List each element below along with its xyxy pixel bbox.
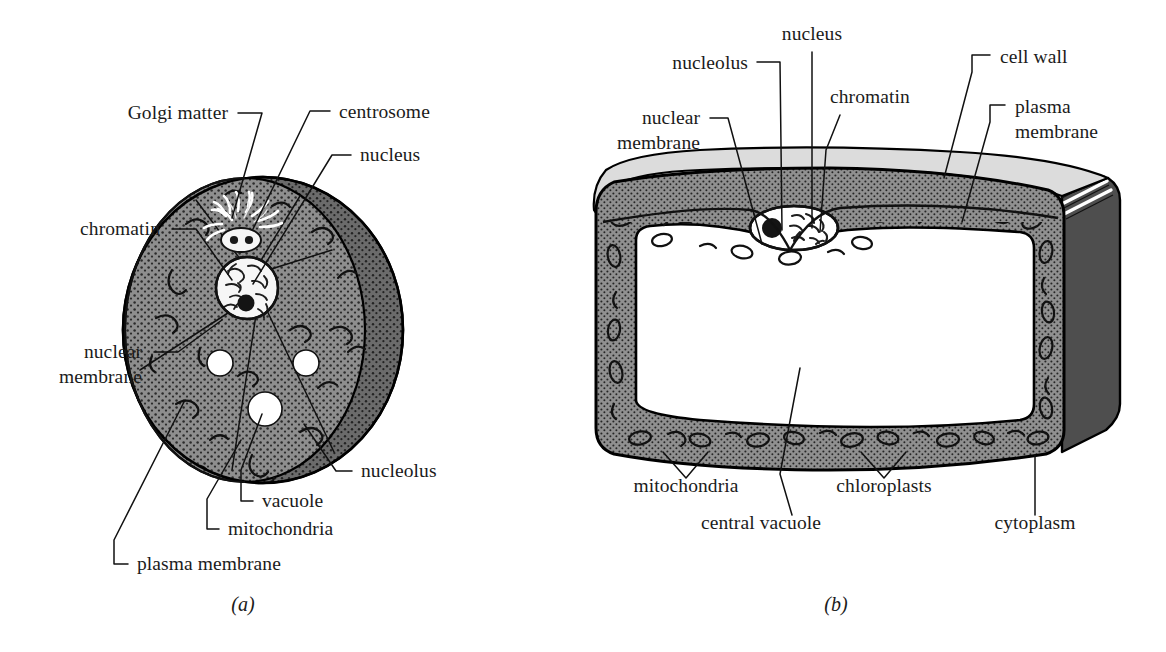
label-chromatin-animal: chromatin (80, 218, 160, 239)
animal-nucleolus (238, 295, 255, 312)
plant-cell-illustration (594, 147, 1120, 470)
animal-vacuole-2 (293, 350, 319, 376)
label-nuclear-membrane-animal-line2: membrane (59, 366, 142, 387)
animal-vacuole-1 (207, 350, 233, 376)
animal-centriole-2 (245, 236, 253, 244)
label-nucleus-animal: nucleus (360, 144, 420, 165)
animal-centriole-1 (230, 236, 238, 244)
caption-a: (a) (231, 593, 255, 616)
label-plasma-membrane-plant-line1: plasma (1015, 96, 1071, 117)
label-mitochondria-plant: mitochondria (633, 475, 738, 496)
label-nuclear-membrane-animal-line1: nuclear (84, 341, 142, 362)
plant-central-vacuole (636, 224, 1034, 427)
label-golgi-matter: Golgi matter (128, 102, 229, 123)
caption-b: (b) (824, 593, 848, 616)
label-cell-wall: cell wall (1000, 46, 1068, 67)
label-nuclear-membrane-plant-line1: nuclear (642, 107, 700, 128)
animal-centrosome (221, 228, 261, 252)
cell-diagram-figure: Golgi matter centrosome nucleus chromati… (0, 0, 1166, 652)
label-nuclear-membrane-plant-line2: membrane (617, 132, 700, 153)
label-chromatin-plant: chromatin (830, 86, 910, 107)
label-central-vacuole: central vacuole (701, 512, 821, 533)
label-plasma-membrane-plant-line2: membrane (1015, 121, 1098, 142)
diagram-canvas: Golgi matter centrosome nucleus chromati… (0, 0, 1166, 652)
label-vacuole: vacuole (262, 490, 323, 511)
label-nucleolus-plant: nucleolus (672, 52, 748, 73)
plant-cell-side-face (1062, 178, 1120, 452)
label-nucleolus-animal: nucleolus (361, 460, 437, 481)
label-cytoplasm: cytoplasm (994, 512, 1075, 533)
label-chloroplasts: chloroplasts (836, 475, 931, 496)
plant-nucleolus (762, 218, 782, 238)
label-centrosome: centrosome (339, 101, 430, 122)
animal-vacuole-3 (248, 392, 282, 426)
label-mitochondria-animal: mitochondria (228, 518, 333, 539)
label-nucleus-plant: nucleus (782, 23, 842, 44)
label-plasma-membrane-animal: plasma membrane (137, 553, 281, 574)
